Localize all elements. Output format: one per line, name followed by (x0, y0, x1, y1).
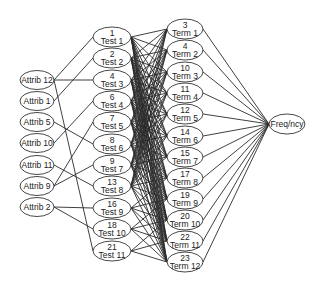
edge-M2-F (203, 50, 269, 124)
edge-A2-T10 (54, 207, 93, 229)
edge-A2-T9 (54, 207, 93, 208)
output-node-frequency: Freq/ncy (269, 114, 305, 134)
test-node-t3: 4Test 3 (93, 70, 131, 90)
term-node-m6: 14Term 6 (167, 126, 203, 146)
edge-A12-T1 (54, 37, 93, 80)
node-label: Term 11 (170, 240, 200, 250)
test-node-t11: 21Test 11 (93, 241, 131, 261)
node-label: Term 4 (172, 92, 198, 102)
node-label: Test 10 (98, 228, 126, 238)
test-node-t1: 1Test 1 (93, 27, 131, 47)
edges-layer (54, 29, 269, 262)
node-label: Test 2 (101, 57, 124, 67)
test-node-t6: 8Test 6 (93, 134, 131, 154)
edge-M7-F (203, 124, 269, 157)
node-label: Term 8 (172, 177, 198, 187)
test-node-t8: 13Test 8 (93, 176, 131, 196)
node-label: Attrib 2 (24, 202, 51, 212)
edge-M1-F (203, 29, 269, 124)
node-label: Test 6 (101, 143, 124, 153)
node-label: Attrib 10 (21, 138, 53, 148)
term-node-m12: 23Term 12 (167, 252, 203, 272)
node-label: Attrib 9 (24, 181, 51, 191)
node-label: Term 9 (172, 198, 198, 208)
edge-A1-T2 (54, 58, 93, 101)
attribute-node-a10: Attrib 10 (20, 134, 54, 153)
node-label: Term 10 (170, 219, 201, 229)
edge-M11-F (203, 124, 269, 241)
edge-A5-T6 (54, 122, 93, 144)
node-label: Term 12 (170, 261, 201, 271)
edge-M8-F (203, 124, 269, 178)
node-label: Attrib 12 (21, 75, 53, 85)
test-node-t2: 2Test 2 (93, 48, 131, 68)
node-label: Test 5 (101, 121, 124, 131)
edge-M6-F (203, 124, 269, 136)
term-node-m1: 3Term 1 (167, 19, 203, 39)
test-node-t5: 7Test 5 (93, 112, 131, 132)
attribute-node-a11: Attrib 11 (20, 156, 54, 175)
node-label: Term 3 (172, 71, 198, 81)
attribute-node-a2: Attrib 2 (20, 198, 54, 217)
attribute-node-a5: Attrib 5 (20, 113, 54, 132)
node-label: Test 3 (101, 79, 124, 89)
node-label: Term 7 (172, 156, 198, 166)
node-label: Term 2 (172, 49, 198, 59)
attribute-node-a1: Attrib 1 (20, 92, 54, 111)
node-label: Test 4 (101, 100, 124, 110)
node-label: Test 7 (101, 164, 124, 174)
node-label: Term 1 (172, 28, 198, 38)
term-node-m7: 15Term 7 (167, 147, 203, 167)
edge-M10-F (203, 124, 269, 220)
diagram-canvas: Attrib 12Attrib 1Attrib 5Attrib 10Attrib… (0, 0, 317, 284)
term-node-m5: 12Term 5 (167, 104, 203, 124)
network-diagram: Attrib 12Attrib 1Attrib 5Attrib 10Attrib… (0, 0, 317, 284)
edge-A9-T5 (54, 122, 93, 186)
term-node-m2: 4Term 2 (167, 40, 203, 60)
edge-M12-F (203, 124, 269, 262)
term-node-m4: 11Term 4 (167, 83, 203, 103)
node-label: Freq/ncy (270, 119, 304, 129)
node-label: Attrib 1 (24, 96, 51, 106)
term-node-m11: 22Term 11 (167, 231, 203, 251)
test-node-t9: 16Test 9 (93, 198, 131, 218)
node-label: Test 11 (99, 250, 126, 260)
attribute-node-a12: Attrib 12 (20, 71, 54, 90)
term-node-m9: 19Term 9 (167, 189, 203, 209)
term-node-m10: 20Term 10 (167, 210, 203, 230)
attribute-node-a9: Attrib 9 (20, 177, 54, 196)
node-label: Test 9 (101, 207, 124, 217)
test-node-t4: 6Test 4 (93, 91, 131, 111)
node-label: Test 1 (101, 36, 124, 46)
node-label: Attrib 11 (21, 160, 52, 170)
test-node-t7: 9Test 7 (93, 155, 131, 175)
node-label: Term 6 (172, 135, 198, 145)
node-label: Attrib 5 (24, 117, 51, 127)
term-node-m8: 17Term 8 (167, 168, 203, 188)
term-node-m3: 10Term 3 (167, 62, 203, 82)
test-node-t10: 18Test 10 (93, 219, 131, 239)
node-label: Term 5 (172, 113, 198, 123)
edge-M9-F (203, 124, 269, 199)
node-label: Test 8 (101, 185, 124, 195)
